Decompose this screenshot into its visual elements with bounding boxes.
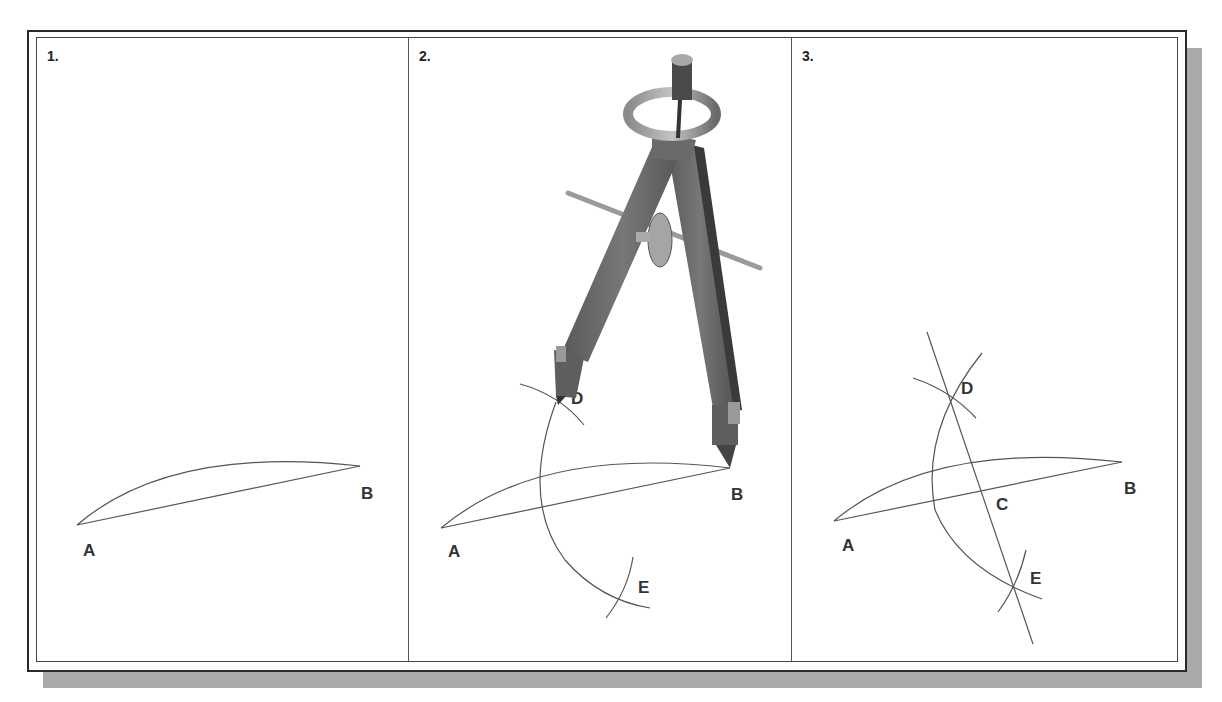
panel-step-1: 1. bbox=[37, 38, 409, 661]
panel-step-3: 3. bbox=[792, 38, 1177, 661]
frame-shadow-right bbox=[1186, 48, 1202, 688]
step-3-label: 3. bbox=[802, 48, 814, 64]
figure-inner-frame: 1. 2. 3. bbox=[36, 37, 1178, 662]
panel-step-2: 2. bbox=[409, 38, 792, 661]
step-2-label: 2. bbox=[419, 48, 431, 64]
figure-outer-frame: 1. 2. 3. bbox=[27, 30, 1187, 672]
step-1-label: 1. bbox=[47, 48, 59, 64]
frame-shadow-bottom bbox=[43, 671, 1202, 688]
